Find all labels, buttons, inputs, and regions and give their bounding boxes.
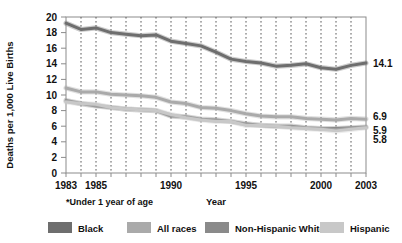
legend-swatch-black — [48, 222, 72, 233]
y-axis-title: Deaths per 1,000 Live Births — [4, 41, 15, 168]
y-tick-label-6: 6 — [51, 121, 57, 132]
black-end-label: 14.1 — [373, 58, 393, 69]
y-tick-label-16: 16 — [46, 43, 58, 54]
x-axis-ticks — [66, 173, 366, 177]
y-tick-label-4: 4 — [51, 136, 57, 147]
chart-canvas: Deaths per 1,000 Live Births 20181614121… — [0, 0, 402, 243]
legend-label-non-hispanic-white: Non-Hispanic White — [235, 223, 325, 234]
y-tick-label-0: 0 — [51, 168, 57, 179]
legend-swatch-non-hispanic-white — [205, 222, 229, 233]
x-axis-title: Year — [206, 196, 226, 207]
legend-label-all-races: All races — [157, 223, 197, 234]
y-tick-label-2: 2 — [51, 152, 57, 163]
all-races-end-label: 6.9 — [373, 111, 387, 122]
x-tick-label-1983: 1983 — [55, 180, 78, 191]
y-tick-label-20: 20 — [46, 12, 58, 23]
legend-label-black: Black — [78, 223, 104, 234]
y-tick-label-12: 12 — [46, 74, 58, 85]
y-tick-label-10: 10 — [46, 90, 58, 101]
footnote-under-one-year: *Under 1 year of age — [66, 197, 153, 207]
legend-swatch-all-races — [127, 222, 151, 233]
y-tick-label-18: 18 — [46, 27, 58, 38]
hispanic-end-label: 5.8 — [373, 134, 387, 145]
infant-mortality-line-chart: Deaths per 1,000 Live Births 20181614121… — [0, 0, 402, 243]
y-tick-label-8: 8 — [51, 105, 57, 116]
chart-legend: BlackAll racesNon-Hispanic WhiteHispanic — [48, 222, 390, 234]
legend-swatch-hispanic — [320, 222, 344, 233]
x-tick-label-2000: 2000 — [310, 180, 333, 191]
x-tick-label-1990: 1990 — [160, 180, 183, 191]
legend-label-hispanic: Hispanic — [350, 223, 390, 234]
x-tick-label-2003: 2003 — [355, 180, 378, 191]
x-tick-label-1995: 1995 — [235, 180, 258, 191]
y-tick-label-14: 14 — [46, 58, 58, 69]
x-tick-label-1985: 1985 — [85, 180, 108, 191]
svg-text:Deaths per 1,000 Live Births: Deaths per 1,000 Live Births — [4, 41, 15, 168]
